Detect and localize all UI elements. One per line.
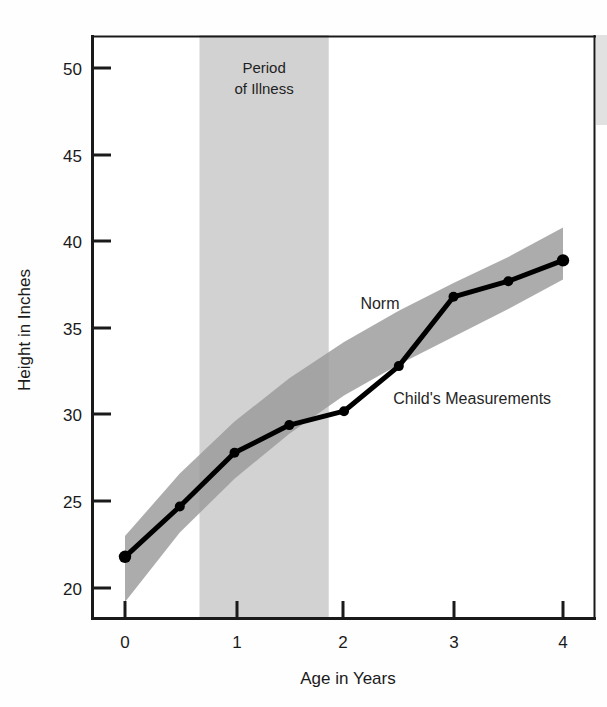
data-point-marker bbox=[175, 502, 185, 512]
y-tick-label-35: 35 bbox=[63, 320, 82, 339]
y-tick-label-40: 40 bbox=[63, 233, 82, 252]
y-axis-title: Height in Inches bbox=[15, 269, 34, 391]
y-tick-label-30: 30 bbox=[63, 406, 82, 425]
scan-edge-artifact bbox=[596, 35, 607, 125]
x-axis-title: Age in Years bbox=[300, 669, 395, 688]
data-point-marker bbox=[557, 254, 569, 266]
period-of-illness-region bbox=[200, 35, 329, 620]
x-tick-label-1: 1 bbox=[232, 633, 241, 652]
norm-annotation-label: Norm bbox=[360, 295, 399, 312]
child-measurements-annotation-label: Child's Measurements bbox=[393, 390, 551, 407]
data-point-marker bbox=[119, 551, 131, 563]
y-tick-label-45: 45 bbox=[63, 147, 82, 166]
y-tick-label-50: 50 bbox=[63, 60, 82, 79]
illness-label-line-1: Period bbox=[242, 59, 285, 76]
data-point-marker bbox=[394, 361, 404, 371]
x-tick-label-0: 0 bbox=[120, 633, 129, 652]
data-point-marker bbox=[284, 420, 294, 430]
y-tick-label-20: 20 bbox=[63, 580, 82, 599]
x-tick-label-4: 4 bbox=[558, 633, 567, 652]
data-point-marker bbox=[503, 276, 513, 286]
y-tick-label-25: 25 bbox=[63, 493, 82, 512]
x-tick-label-2: 2 bbox=[338, 633, 347, 652]
illness-label-line-2: of Illness bbox=[234, 80, 293, 97]
data-point-marker bbox=[339, 406, 349, 416]
data-point-marker bbox=[230, 448, 240, 458]
x-tick-label-3: 3 bbox=[449, 633, 458, 652]
data-point-marker bbox=[449, 292, 459, 302]
growth-chart-figure: 50 45 40 35 30 25 20 0 1 2 3 4 Age in Ye… bbox=[0, 0, 607, 707]
